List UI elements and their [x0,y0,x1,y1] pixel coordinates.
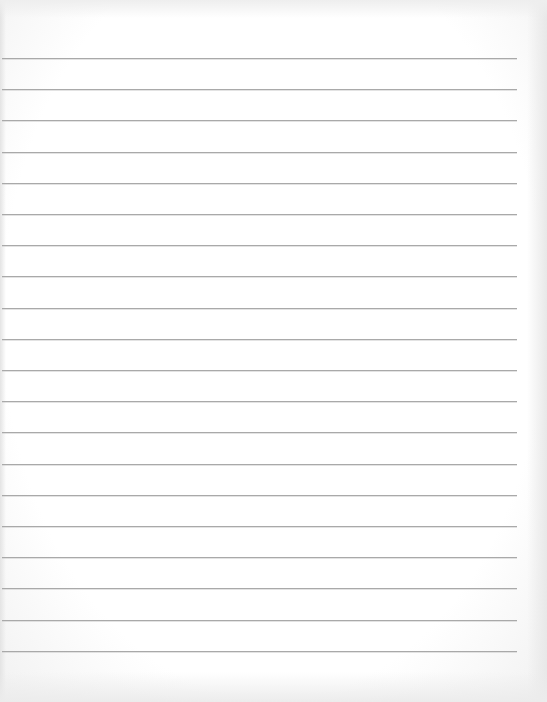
ruled-line [2,245,517,246]
ruled-line [2,495,517,496]
paper-shadow-left [0,0,6,702]
ruled-line [2,464,517,465]
paper-shadow-top [0,0,547,18]
ruled-line [2,401,517,402]
ruled-line [2,651,517,652]
paper-shadow-bottom [0,672,547,702]
ruled-line [2,588,517,589]
ruled-line [2,432,517,433]
paper-shadow-right [527,0,547,702]
ruled-line [2,58,517,59]
ruled-line [2,120,517,121]
ruled-line [2,308,517,309]
lined-paper-page [0,0,547,702]
ruled-line [2,152,517,153]
ruled-line [2,214,517,215]
ruled-line [2,339,517,340]
ruled-line [2,183,517,184]
ruled-line [2,276,517,277]
ruled-line [2,620,517,621]
ruled-line [2,370,517,371]
ruled-line [2,557,517,558]
ruled-line [2,526,517,527]
ruled-line [2,89,517,90]
